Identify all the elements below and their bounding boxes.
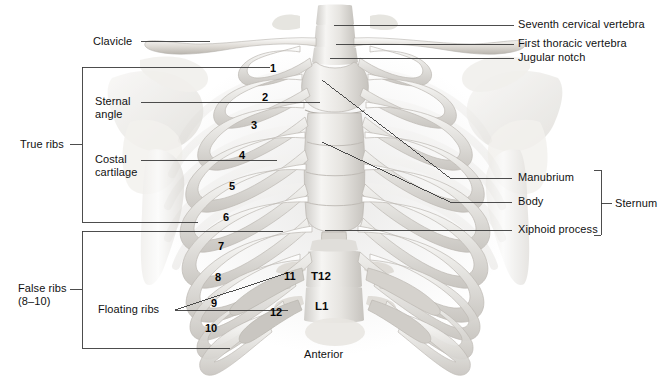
rib-number-8: 8 xyxy=(215,271,221,283)
leader-manubrium xyxy=(322,80,512,178)
bracket-false-ribs xyxy=(70,231,283,348)
bracket-true-ribs xyxy=(70,67,270,222)
label-floating-ribs: Floating ribs xyxy=(98,303,159,316)
label-anterior-orientation: Anterior xyxy=(304,348,343,361)
rib-number-7: 7 xyxy=(218,240,224,252)
label-jugular-notch: Jugular notch xyxy=(518,51,585,64)
label-sternal-angle: Sternal angle xyxy=(95,95,131,120)
rib-number-10: 10 xyxy=(205,322,217,334)
rib-number-12: 12 xyxy=(270,306,282,318)
rib-number-9: 9 xyxy=(211,297,217,309)
label-clavicle: Clavicle xyxy=(93,35,132,48)
label-manubrium: Manubrium xyxy=(518,171,574,184)
rib-number-2: 2 xyxy=(262,91,268,103)
rib-number-6: 6 xyxy=(223,211,229,223)
label-true-ribs: True ribs xyxy=(20,138,64,151)
rib-number-4: 4 xyxy=(239,149,245,161)
rib-number-5: 5 xyxy=(229,180,235,192)
label-sternum: Sternum xyxy=(615,197,657,210)
anatomy-figure-rib-cage: Clavicle Sternal angle Costal cartilage … xyxy=(0,0,670,378)
t12-vertebra-label: T12 xyxy=(311,270,331,282)
label-body: Body xyxy=(518,195,543,208)
label-false-ribs: False ribs (8–10) xyxy=(18,282,67,307)
rib-number-11: 11 xyxy=(284,270,296,282)
l1-vertebra-label: L1 xyxy=(315,300,328,312)
rib-number-3: 3 xyxy=(251,119,257,131)
label-xiphoid-process: Xiphoid process xyxy=(518,223,598,236)
leader-floating-ribs-upper xyxy=(175,272,290,310)
rib-number-1: 1 xyxy=(270,62,276,74)
label-costal-cartilage: Costal cartilage xyxy=(95,153,137,178)
label-seventh-cervical-vertebra: Seventh cervical vertebra xyxy=(518,18,645,31)
label-first-thoracic-vertebra: First thoracic vertebra xyxy=(518,37,627,50)
leader-body xyxy=(322,142,512,202)
